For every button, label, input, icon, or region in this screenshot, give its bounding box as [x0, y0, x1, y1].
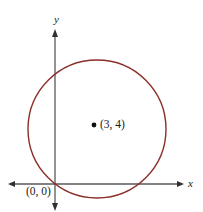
x-axis-arrow-right-icon — [177, 181, 184, 187]
y-axis-label: y — [54, 14, 59, 25]
circle-curve — [28, 60, 166, 198]
y-axis-arrow-down-icon — [52, 203, 58, 211]
coordinate-plane-figure: y x (0, 0) (3, 4) — [0, 0, 203, 212]
point-marker-3-4 — [92, 123, 97, 128]
x-axis-arrow-left-icon — [8, 181, 15, 187]
y-axis-arrow-up-icon — [52, 29, 58, 37]
x-axis-label: x — [188, 178, 193, 189]
figure-canvas — [0, 0, 203, 212]
center-coordinate-label: (3, 4) — [100, 119, 125, 131]
origin-coordinate-label: (0, 0) — [26, 186, 51, 198]
